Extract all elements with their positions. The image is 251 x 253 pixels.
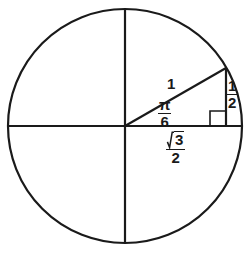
adjacent-denominator: 2 — [166, 150, 185, 166]
hypotenuse-label: 1 — [167, 76, 175, 91]
opposite-leg-label: 1 2 — [227, 78, 237, 111]
angle-fraction: π 6 — [158, 97, 171, 130]
adjacent-numerator: 3 — [166, 131, 185, 150]
angle-numerator: π — [158, 97, 171, 114]
opposite-denominator: 2 — [227, 95, 237, 111]
hypotenuse-radius-line — [125, 68, 226, 126]
radical-sign-icon: 3 — [167, 131, 184, 149]
figure-canvas — [0, 0, 251, 253]
right-angle-marker — [210, 111, 226, 126]
radicand-value: 3 — [174, 131, 184, 149]
radical-tick-icon — [167, 131, 174, 149]
opposite-fraction: 1 2 — [227, 78, 237, 111]
unit-circle-diagram: 1 π 6 1 2 3 2 — [0, 0, 251, 253]
angle-label: π 6 — [158, 97, 171, 130]
adjacent-leg-label: 3 2 — [166, 131, 185, 166]
opposite-numerator: 1 — [227, 78, 237, 95]
adjacent-fraction: 3 2 — [166, 131, 185, 166]
angle-denominator: 6 — [158, 114, 171, 130]
